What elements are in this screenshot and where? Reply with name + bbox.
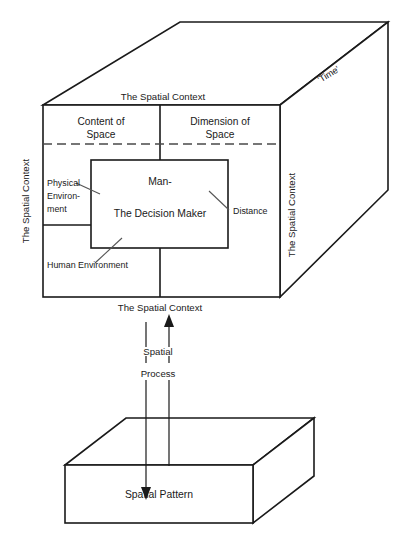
top-spatial-context-label: The Spatial Context xyxy=(121,91,206,102)
diagram-root: 'Time' The Spatial Context Content of Sp… xyxy=(0,0,408,544)
decision-maker-box xyxy=(91,160,228,248)
physical-environment-label-line1: Physical xyxy=(47,178,80,188)
physical-environment-label-line3: ment xyxy=(47,204,67,214)
content-of-space-label-line1: Content of xyxy=(77,116,124,127)
physical-environment-label-line2: Environ- xyxy=(47,191,80,201)
dimension-of-space-label-line2: Space xyxy=(206,129,235,140)
spatial-context-diagram: 'Time' The Spatial Context Content of Sp… xyxy=(0,0,408,544)
dimension-of-space-label-line1: Dimension of xyxy=(190,116,250,127)
up-arrow-head xyxy=(164,314,174,327)
cube-group xyxy=(43,22,388,297)
decision-maker-line1: Man- xyxy=(148,176,172,187)
spatial-pattern-slab-group xyxy=(65,418,314,523)
decision-maker-line2: The Decision Maker xyxy=(114,208,207,219)
bottom-spatial-context-label: The Spatial Context xyxy=(118,302,203,313)
spatial-pattern-label: Spatial Pattern xyxy=(125,489,193,500)
left-spatial-context-label: The Spatial Context xyxy=(20,159,31,244)
spatial-process-label-line1: Spatial xyxy=(143,346,172,357)
human-environment-label: Human Environment xyxy=(47,260,128,270)
content-of-space-label-line2: Space xyxy=(87,129,116,140)
distance-label: Distance xyxy=(233,206,268,216)
right-spatial-context-label: The Spatial Context xyxy=(286,173,297,258)
spatial-process-label-line2: Process xyxy=(141,368,176,379)
